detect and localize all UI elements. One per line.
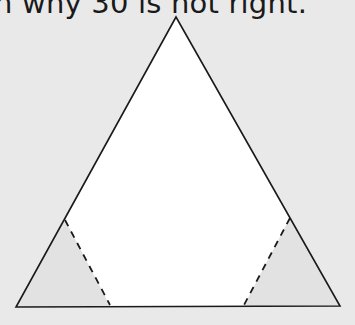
canvas: n why 30 is not right.	[0, 0, 355, 325]
triangle-figure	[0, 0, 355, 325]
triangle-interior	[65, 17, 290, 306]
